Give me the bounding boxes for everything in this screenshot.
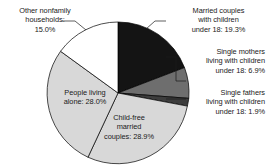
pie-label-child-free-married-couples: Child-free married couples: 28.9% <box>96 113 162 141</box>
pie-label-single-mothers: Single mothers living with children unde… <box>168 47 265 75</box>
pie-label-single-fathers: Single fathers living with children unde… <box>168 88 265 116</box>
pie-chart: Other nonfamily households: 15.0% Marrie… <box>0 0 267 168</box>
pie-label-other-nonfamily-households: Other nonfamily households: 15.0% <box>2 6 88 34</box>
leader-line-married-couples-with-children <box>146 21 166 29</box>
pie-label-married-couples-with-children: Married couples with children under 18: … <box>172 6 265 34</box>
pie-label-people-living-alone: People living alone: 28.0% <box>52 88 118 107</box>
